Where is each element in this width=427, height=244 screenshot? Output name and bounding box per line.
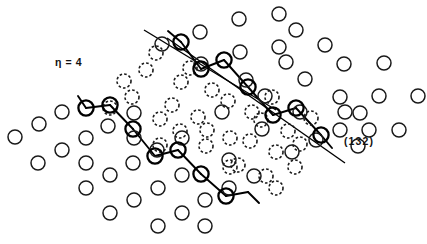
lattice-site-dashed	[165, 98, 179, 112]
chain-bond	[178, 150, 201, 174]
lattice-site-open	[233, 45, 247, 59]
chain-bond	[86, 105, 110, 108]
lattice-site-dashed	[139, 63, 153, 77]
lattice-site-dashed	[223, 131, 237, 145]
lattice-site-open	[151, 181, 165, 195]
lattice-site-open	[193, 25, 207, 39]
lattice-site-open	[215, 105, 229, 119]
lattice-site-open	[175, 168, 189, 182]
lattice-site-dashed	[288, 160, 302, 174]
lattice-site-open	[126, 156, 140, 170]
lattice-site-open	[337, 57, 351, 71]
lattice-site-open	[377, 56, 391, 70]
lattice-site-dashed	[243, 134, 257, 148]
chain-bond	[155, 150, 178, 156]
lattice-site-open	[127, 106, 141, 120]
lattice-site-open	[175, 206, 189, 220]
lattice-site-open	[255, 122, 269, 136]
lattice-site-open	[298, 72, 312, 86]
lattice-site-open	[32, 117, 46, 131]
lattice-site-open	[79, 156, 93, 170]
lattice-site-open	[198, 193, 212, 207]
chain-bond	[248, 192, 259, 203]
lattice-site-open	[31, 156, 45, 170]
lattice-site-dashed	[221, 94, 235, 108]
lattice-site-open	[79, 181, 93, 195]
plane-line-lower	[167, 38, 345, 163]
lattice-site-dashed	[191, 110, 205, 124]
lattice-site-open	[272, 7, 286, 21]
lattice-site-open	[79, 131, 93, 145]
lattice-site-dashed	[293, 137, 307, 151]
lattice-site-open	[151, 219, 165, 233]
plane-index-label: (132)	[344, 135, 374, 147]
lattice-site-dashed	[281, 124, 295, 138]
lattice-site-open	[279, 55, 293, 69]
open-circle-group	[8, 7, 425, 233]
lattice-site-dashed	[153, 112, 167, 126]
lattice-site-open	[55, 105, 69, 119]
lattice-site-open	[411, 89, 425, 103]
plane-line-upper	[144, 30, 276, 110]
lattice-site-open	[198, 219, 212, 233]
lattice-site-dashed	[174, 75, 188, 89]
lattice-site-dashed	[269, 181, 283, 195]
lattice-site-open	[338, 105, 352, 119]
crystal-lattice-figure: η = 4 (132)	[0, 0, 427, 244]
eta-label: η = 4	[55, 56, 82, 68]
lattice-site-open	[372, 89, 386, 103]
lattice-site-dashed	[117, 74, 131, 88]
lattice-site-open	[353, 106, 367, 120]
lattice-site-dashed	[200, 123, 214, 137]
lattice-site-dashed	[269, 145, 283, 159]
lattice-site-open	[103, 206, 117, 220]
lattice-site-dashed	[199, 139, 213, 153]
lattice-site-open	[103, 168, 117, 182]
lattice-site-open	[247, 169, 261, 183]
lattice-site-open	[392, 123, 406, 137]
lattice-site-open	[285, 145, 299, 159]
chain-bond	[133, 129, 155, 156]
lattice-site-open	[55, 143, 69, 157]
lattice-site-open	[232, 12, 246, 26]
lattice-site-open	[101, 119, 115, 133]
lattice-canvas	[0, 0, 427, 244]
lattice-site-open	[318, 38, 332, 52]
lattice-site-open	[289, 23, 303, 37]
lattice-site-open	[272, 40, 286, 54]
lattice-site-open	[8, 130, 22, 144]
lattice-site-dashed	[205, 83, 219, 97]
lattice-site-open	[333, 90, 347, 104]
lattice-site-dashed	[125, 90, 139, 104]
lattice-site-dashed	[245, 105, 259, 119]
lattice-site-open	[127, 193, 141, 207]
